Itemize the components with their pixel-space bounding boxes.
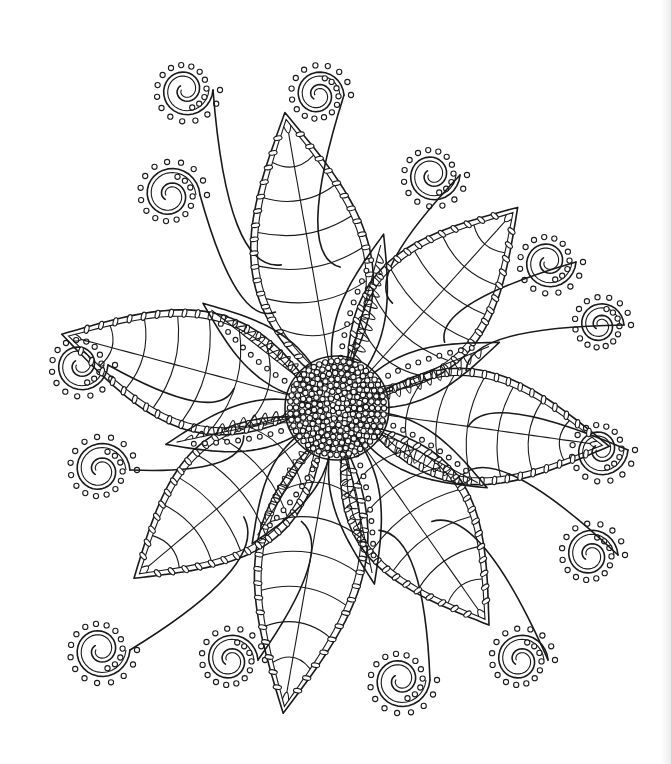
stem [466,325,624,371]
spiral-tendril [466,295,634,371]
page-edge-shadow [661,0,671,764]
spiral-tendril [68,517,248,686]
stem [468,413,628,450]
spiral-tendrils [50,63,638,716]
stem [258,521,312,660]
stem [432,520,548,660]
stem [130,517,248,650]
spiral-tendril [444,235,586,343]
outer-petal [62,308,318,435]
spiral-tendril [155,63,282,266]
spiral-tendril [468,413,638,484]
stem [213,90,281,265]
flower-mandala-artwork [0,0,671,764]
stem [444,262,576,342]
stem [200,195,275,314]
